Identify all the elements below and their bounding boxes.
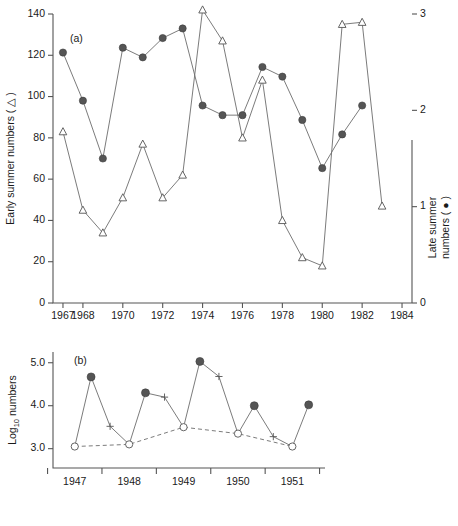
data-point-triangle bbox=[199, 6, 207, 13]
data-point-circle bbox=[79, 97, 86, 104]
panel-a-xtick-label: 1982 bbox=[350, 309, 374, 321]
panel-b-xtick-label: 1950 bbox=[226, 475, 250, 487]
data-point-circle bbox=[159, 34, 166, 41]
data-point-filled-circle bbox=[250, 402, 258, 410]
panel-a-ytick-label: 60 bbox=[33, 172, 45, 184]
data-point-triangle bbox=[119, 194, 127, 201]
data-point-triangle bbox=[139, 140, 147, 147]
data-point-circle bbox=[259, 63, 266, 70]
data-point-circle bbox=[219, 112, 226, 119]
panel-a-ytick-label: 140 bbox=[27, 7, 45, 19]
panel-b-ytick-label: 3.0 bbox=[30, 441, 45, 453]
panel-a-y2tick-label: 0 bbox=[420, 296, 426, 308]
data-point-open-circle bbox=[289, 443, 296, 450]
data-point-filled-circle bbox=[141, 389, 149, 397]
svg-text:Log10 numbers: Log10 numbers bbox=[6, 375, 21, 445]
data-point-triangle bbox=[299, 254, 307, 261]
panel-b-ytick-label: 5.0 bbox=[30, 356, 45, 368]
panel-a-series-early-summer bbox=[59, 6, 386, 269]
panel-a-xtick-label: 1976 bbox=[231, 309, 255, 321]
panel-a-ytick-label: 0 bbox=[39, 296, 45, 308]
panel-a-xtick-label: 1968 bbox=[71, 309, 95, 321]
panel-b-y-axis-title: Log10 numbers bbox=[6, 375, 21, 445]
data-point-triangle bbox=[318, 262, 326, 269]
panel-a-ytick-label: 20 bbox=[33, 254, 45, 266]
panel-a: 0204060801001201400123196719681970197219… bbox=[0, 0, 458, 330]
data-point-triangle bbox=[239, 134, 247, 141]
data-point-triangle bbox=[79, 206, 87, 213]
data-point-circle bbox=[119, 44, 126, 51]
data-point-filled-circle bbox=[87, 373, 95, 381]
data-point-triangle bbox=[358, 18, 366, 25]
panel-a-caption: (a) bbox=[70, 32, 83, 44]
panel-a-xtick-label: 1974 bbox=[191, 309, 215, 321]
data-point-plus bbox=[161, 394, 168, 401]
panel-a-ytick-label: 80 bbox=[33, 131, 45, 143]
panel-a-y-axis-title: Early summer numbers ( △ ) bbox=[4, 92, 16, 224]
data-point-open-circle bbox=[126, 441, 133, 448]
data-point-circle bbox=[319, 165, 326, 172]
data-point-triangle bbox=[59, 128, 67, 135]
panel-b-axes: 3.04.05.019471948194919501951Log10 numbe… bbox=[6, 352, 325, 487]
panel-a-xtick-label: 1984 bbox=[390, 309, 414, 321]
data-point-triangle bbox=[179, 171, 187, 178]
panel-a-early-summer-line bbox=[63, 10, 382, 266]
panel-b-plot: 3.04.05.019471948194919501951Log10 numbe… bbox=[0, 338, 458, 526]
data-point-circle bbox=[59, 49, 66, 56]
panel-a-xtick-label: 1972 bbox=[151, 309, 175, 321]
panel-b-caption: (b) bbox=[74, 354, 87, 366]
panel-a-y2tick-label: 3 bbox=[420, 7, 426, 19]
panel-a-ytick-label: 120 bbox=[27, 48, 45, 60]
panel-a-y2-axis-title-line1: Late summer bbox=[426, 196, 438, 258]
panel-a-xtick-label: 1970 bbox=[111, 309, 135, 321]
data-point-triangle bbox=[279, 216, 287, 223]
data-point-circle bbox=[99, 155, 106, 162]
data-point-circle bbox=[299, 116, 306, 123]
panel-a-ytick-label: 40 bbox=[33, 213, 45, 225]
panel-b-ytick-label: 4.0 bbox=[30, 398, 45, 410]
data-point-circle bbox=[279, 73, 286, 80]
data-point-triangle bbox=[219, 37, 227, 44]
panel-b-xtick-label: 1948 bbox=[117, 475, 141, 487]
panel-a-xtick-label: 1980 bbox=[311, 309, 335, 321]
panel-b-xtick-label: 1949 bbox=[172, 475, 196, 487]
data-point-circle bbox=[339, 131, 346, 138]
panel-b-series-sequence bbox=[71, 357, 313, 450]
panel-a-y2-axis-title-line2: numbers ( ● ) bbox=[439, 196, 451, 259]
data-point-open-circle bbox=[180, 424, 187, 431]
data-point-filled-circle bbox=[305, 401, 313, 409]
figure-root: 0204060801001201400123196719681970197219… bbox=[0, 0, 458, 526]
data-point-circle bbox=[139, 54, 146, 61]
data-point-circle bbox=[199, 102, 206, 109]
panel-a-ytick-label: 100 bbox=[27, 89, 45, 101]
data-point-plus bbox=[270, 433, 277, 440]
panel-b: 3.04.05.019471948194919501951Log10 numbe… bbox=[0, 338, 458, 526]
panel-b-xtick-label: 1947 bbox=[63, 475, 87, 487]
panel-a-plot: 0204060801001201400123196719681970197219… bbox=[0, 0, 458, 330]
data-point-circle bbox=[239, 112, 246, 119]
data-point-circle bbox=[179, 25, 186, 32]
panel-a-series-late-summer bbox=[59, 25, 365, 172]
data-point-circle bbox=[359, 102, 366, 109]
data-point-open-circle bbox=[234, 430, 241, 437]
data-point-triangle bbox=[259, 76, 267, 83]
panel-a-y2tick-label: 2 bbox=[420, 103, 426, 115]
panel-a-xtick-label: 1978 bbox=[271, 309, 295, 321]
data-point-triangle bbox=[378, 202, 386, 209]
panel-b-xtick-label: 1951 bbox=[281, 475, 305, 487]
panel-a-late-summer-line bbox=[63, 28, 362, 168]
data-point-open-circle bbox=[71, 443, 78, 450]
data-point-filled-circle bbox=[196, 357, 204, 365]
